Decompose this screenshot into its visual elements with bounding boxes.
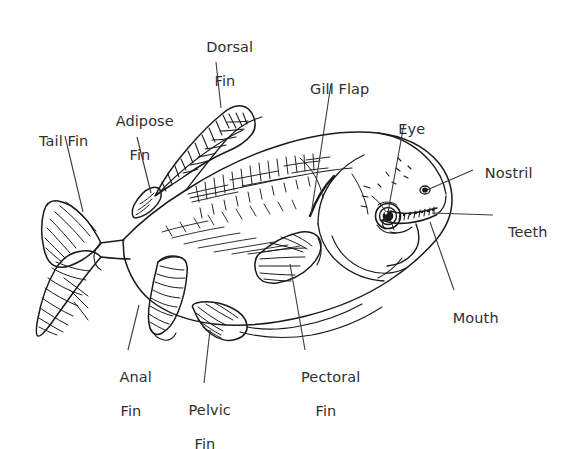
tail-fin-outline bbox=[42, 201, 101, 267]
label-anal-fin: Anal Fin bbox=[101, 352, 161, 437]
label-nostril-line1: Nostril bbox=[485, 165, 533, 181]
label-pectoral-fin: Pectoral Fin bbox=[286, 352, 366, 437]
label-anal-fin-line2: Fin bbox=[101, 403, 161, 420]
scale-texture-upper bbox=[188, 154, 330, 218]
tail-fin-lower-lobe bbox=[37, 251, 102, 336]
label-pelvic-fin-line2: Fin bbox=[172, 436, 238, 449]
label-gill-flap: Gill Flap bbox=[291, 64, 379, 98]
snout-to-mouth bbox=[436, 196, 446, 215]
label-nostril: Nostril bbox=[473, 148, 535, 182]
leader-pelvic-fin bbox=[204, 330, 210, 383]
label-pelvic-fin: Pelvic Fin bbox=[172, 385, 238, 449]
label-dorsal-fin-line1: Dorsal bbox=[206, 39, 253, 55]
label-dorsal-fin-line2: Fin bbox=[186, 73, 264, 90]
operculum-inner-curve bbox=[332, 236, 406, 273]
label-pectoral-fin-line2: Fin bbox=[286, 403, 366, 420]
shoulder-line bbox=[300, 158, 323, 198]
lower-jaw bbox=[387, 224, 419, 266]
label-eye: Eye bbox=[385, 104, 429, 138]
pectoral-fin-rays bbox=[259, 234, 312, 281]
leader-anal-fin bbox=[128, 305, 139, 350]
tail-fin-lower-rays bbox=[39, 262, 90, 335]
label-adipose-fin-line1: Adipose bbox=[116, 113, 174, 129]
caudal-peduncle-top bbox=[100, 240, 124, 243]
anal-fin-tip-notch bbox=[150, 328, 176, 340]
label-adipose-fin-line2: Fin bbox=[99, 147, 181, 164]
leader-teeth bbox=[432, 213, 493, 215]
head-speckles bbox=[378, 158, 411, 187]
belly-keel-line bbox=[240, 307, 382, 337]
nostril-group bbox=[420, 186, 430, 194]
fish-anatomy-illustration bbox=[0, 0, 563, 449]
eye-highlight bbox=[385, 212, 388, 215]
caudal-peduncle-bottom bbox=[101, 257, 130, 259]
label-dorsal-fin: Dorsal Fin bbox=[186, 22, 264, 107]
label-adipose-fin: Adipose Fin bbox=[99, 96, 181, 181]
label-tail-fin-line1: Tail Fin bbox=[39, 133, 88, 149]
label-gill-flap-line1: Gill Flap bbox=[310, 81, 369, 97]
nostril-inner bbox=[423, 188, 427, 192]
leader-gill-flap bbox=[311, 84, 331, 215]
label-tail-fin: Tail Fin bbox=[24, 116, 94, 150]
label-anal-fin-line1: Anal bbox=[119, 369, 151, 385]
label-pectoral-fin-line1: Pectoral bbox=[301, 369, 360, 385]
eye-group bbox=[376, 202, 401, 233]
gill-cover-arc bbox=[318, 155, 364, 224]
body-shading bbox=[162, 200, 300, 254]
label-teeth: Teeth bbox=[496, 207, 550, 241]
label-pelvic-fin-line1: Pelvic bbox=[189, 402, 231, 418]
label-mouth: Mouth bbox=[440, 293, 502, 327]
tail-fin-upper-rays bbox=[45, 202, 96, 262]
label-eye-line1: Eye bbox=[398, 121, 425, 137]
preopercle-line bbox=[352, 174, 368, 214]
label-mouth-line1: Mouth bbox=[453, 310, 499, 326]
label-teeth-line1: Teeth bbox=[508, 224, 548, 240]
adipose-fin-lines bbox=[136, 193, 154, 215]
